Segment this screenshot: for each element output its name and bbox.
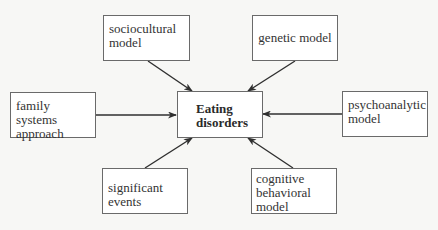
- arrow-significant: [145, 138, 192, 168]
- node-psychoanalytic-model: psychoanalytic model: [342, 91, 428, 137]
- node-eating-disorders-center: Eating disorders: [177, 91, 263, 138]
- arrow-sociocultural: [148, 61, 192, 91]
- arrow-cognitive: [248, 138, 293, 168]
- node-genetic-model: genetic model: [252, 15, 338, 61]
- node-family-systems-approach: family systems approach: [10, 92, 96, 138]
- node-cognitive-behavioral-model: cognitive behavioral model: [251, 168, 337, 214]
- node-significant-events: significant events: [102, 168, 188, 214]
- diagram-canvas: sociocultural model genetic model family…: [0, 0, 438, 230]
- node-sociocultural-model: sociocultural model: [103, 15, 190, 61]
- arrow-genetic: [248, 61, 295, 91]
